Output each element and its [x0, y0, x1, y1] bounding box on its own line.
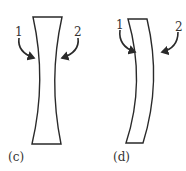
arrow-label-1-d: 1 — [116, 18, 124, 32]
figure-label-d: (d) — [113, 150, 130, 164]
biconcave-lens-shape — [32, 17, 62, 144]
arrow-label-1-c: 1 — [15, 25, 23, 39]
arrow-1-c — [19, 38, 34, 58]
arrow-2-c — [62, 38, 78, 58]
arrow-label-2-c: 2 — [74, 25, 82, 39]
arrow-2-d — [162, 32, 178, 52]
lens-diagram — [0, 0, 186, 171]
meniscus-lens-shape — [126, 19, 154, 143]
arrow-label-2-d: 2 — [175, 20, 183, 34]
figure-label-c: (c) — [8, 150, 24, 164]
